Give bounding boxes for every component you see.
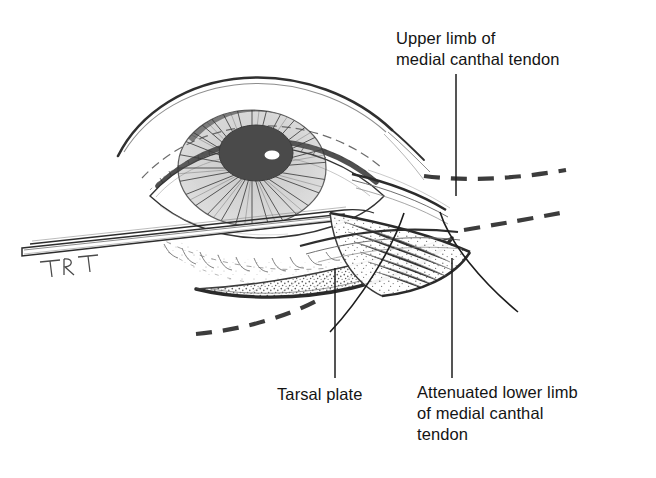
label-attenuated-lower-limb: Attenuated lower limb of medial canthal … <box>417 382 578 445</box>
pupil <box>219 125 293 181</box>
label-upper-limb-of-medial-canthal-tendon: Upper limb of medial canthal tendon <box>396 28 560 70</box>
corneal-highlight <box>265 150 280 159</box>
label-tarsal-plate: Tarsal plate <box>277 384 363 405</box>
